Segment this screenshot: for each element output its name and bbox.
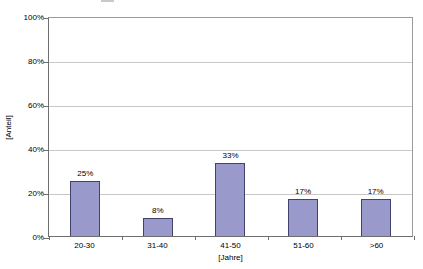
category-label: 20-30	[48, 241, 121, 250]
y-tick-label: 60%	[4, 101, 44, 110]
y-tick-label: 20%	[4, 189, 44, 198]
value-label: 17%	[368, 187, 384, 196]
cut-off-title-fragment	[101, 0, 114, 2]
plot-area: 25%8%33%17%17%	[48, 17, 413, 237]
y-tick-label: 40%	[4, 145, 44, 154]
bar-slot: 25%	[49, 18, 122, 236]
y-tick-label: 80%	[4, 57, 44, 66]
x-axis-title: [Jahre]	[48, 253, 413, 262]
category-labels: 20-3031-4041-5051-60>60	[48, 241, 413, 250]
bar-31-40: 8%	[143, 218, 173, 236]
y-tick-label: 0%	[4, 233, 44, 242]
x-axis-tick	[122, 236, 123, 240]
x-axis-tick	[268, 236, 269, 240]
bar-41-50: 33%	[215, 163, 245, 236]
category-label: 41-50	[194, 241, 267, 250]
bar-slot: 17%	[339, 18, 412, 236]
value-label: 33%	[222, 151, 238, 160]
bar-slot: 17%	[267, 18, 340, 236]
x-axis-tick	[195, 236, 196, 240]
category-label: >60	[340, 241, 413, 250]
category-label: 51-60	[267, 241, 340, 250]
bar-chart: [Anteil] 25%8%33%17%17% 0%20%40%60%80%10…	[0, 0, 423, 269]
bar->60: 17%	[361, 199, 391, 236]
x-axis-tick	[341, 236, 342, 240]
value-label: 8%	[152, 206, 164, 215]
category-label: 31-40	[121, 241, 194, 250]
bars-row: 25%8%33%17%17%	[49, 18, 412, 236]
value-label: 25%	[77, 169, 93, 178]
bar-51-60: 17%	[288, 199, 318, 236]
bar-slot: 33%	[194, 18, 267, 236]
y-tick-label: 100%	[4, 13, 44, 22]
bar-20-30: 25%	[70, 181, 100, 236]
x-axis-tick	[49, 236, 50, 240]
y-axis-title: [Anteil]	[2, 17, 14, 237]
x-axis-tick	[414, 236, 415, 240]
y-axis-title-text: [Anteil]	[4, 115, 13, 139]
bar-slot: 8%	[122, 18, 195, 236]
value-label: 17%	[295, 187, 311, 196]
